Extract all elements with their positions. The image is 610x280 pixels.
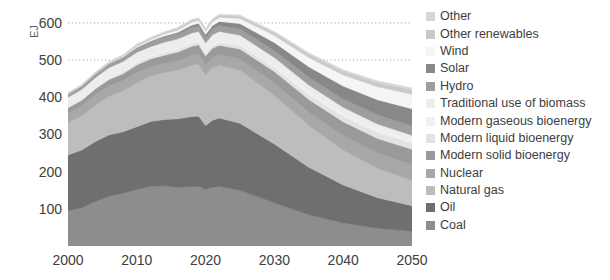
legend-item-label: Traditional use of biomass <box>440 97 585 110</box>
stacked-area-svg <box>68 8 412 246</box>
legend-swatch-icon <box>426 12 435 21</box>
stacked-area-chart-figure: EJ 600500400300200100 200020102020203020… <box>0 0 610 280</box>
legend-item-label: Other renewables <box>440 28 539 41</box>
legend-swatch-icon <box>426 64 435 73</box>
y-axis-tick-100: 100 <box>16 202 62 216</box>
legend-item-hydro[interactable]: Hydro <box>426 78 610 95</box>
y-axis-tick-500: 500 <box>16 53 62 67</box>
legend-item-label: Modern gaseous bioenergy <box>440 115 592 128</box>
legend-item-wind[interactable]: Wind <box>426 43 610 60</box>
legend-swatch-icon <box>426 47 435 56</box>
legend-item-label: Modern liquid bioenergy <box>440 132 573 145</box>
legend-swatch-icon <box>426 117 435 126</box>
x-axis-tick-2010: 2010 <box>107 252 167 268</box>
legend-item-label: Solar <box>440 62 469 75</box>
legend-swatch-icon <box>426 82 435 91</box>
x-axis-tick-2000: 2000 <box>38 252 98 268</box>
plot-area <box>68 8 412 246</box>
legend-item-label: Wind <box>440 45 468 58</box>
y-axis-tick-200: 200 <box>16 165 62 179</box>
legend-swatch-icon <box>426 203 435 212</box>
area-series-group <box>68 14 412 246</box>
legend-item-label: Modern solid bioenergy <box>440 149 570 162</box>
legend-item-label: Other <box>440 10 471 23</box>
legend-item-other[interactable]: Other <box>426 8 610 25</box>
y-axis-tick-labels: 600500400300200100 <box>14 0 62 260</box>
legend-item-label: Hydro <box>440 80 473 93</box>
legend-swatch-icon <box>426 221 435 230</box>
legend-swatch-icon <box>426 30 435 39</box>
legend-swatch-icon <box>426 186 435 195</box>
legend-swatch-icon <box>426 151 435 160</box>
legend-item-natural-gas[interactable]: Natural gas <box>426 182 610 199</box>
legend-item-label: Natural gas <box>440 184 504 197</box>
legend-item-modern-gaseous-bioenergy[interactable]: Modern gaseous bioenergy <box>426 112 610 129</box>
legend-swatch-icon <box>426 134 435 143</box>
x-axis-tick-2030: 2030 <box>244 252 304 268</box>
legend-item-label: Nuclear <box>440 167 483 180</box>
legend-item-nuclear[interactable]: Nuclear <box>426 165 610 182</box>
legend-item-coal[interactable]: Coal <box>426 217 610 234</box>
legend-swatch-icon <box>426 99 435 108</box>
legend-item-modern-liquid-bioenergy[interactable]: Modern liquid bioenergy <box>426 130 610 147</box>
y-axis-tick-300: 300 <box>16 127 62 141</box>
legend-item-other-renewables[interactable]: Other renewables <box>426 25 610 42</box>
x-axis-tick-2040: 2040 <box>313 252 373 268</box>
legend-item-traditional-use-of-biomass[interactable]: Traditional use of biomass <box>426 95 610 112</box>
y-axis-tick-600: 600 <box>16 16 62 30</box>
legend-item-label: Oil <box>440 201 455 214</box>
legend-item-modern-solid-bioenergy[interactable]: Modern solid bioenergy <box>426 147 610 164</box>
legend-item-oil[interactable]: Oil <box>426 199 610 216</box>
y-axis-tick-400: 400 <box>16 90 62 104</box>
legend-item-label: Coal <box>440 219 466 232</box>
x-axis-tick-2020: 2020 <box>176 252 236 268</box>
x-axis-tick-2050: 2050 <box>382 252 442 268</box>
legend-swatch-icon <box>426 169 435 178</box>
chart-legend: OtherOther renewablesWindSolarHydroTradi… <box>426 8 610 234</box>
legend-item-solar[interactable]: Solar <box>426 60 610 77</box>
